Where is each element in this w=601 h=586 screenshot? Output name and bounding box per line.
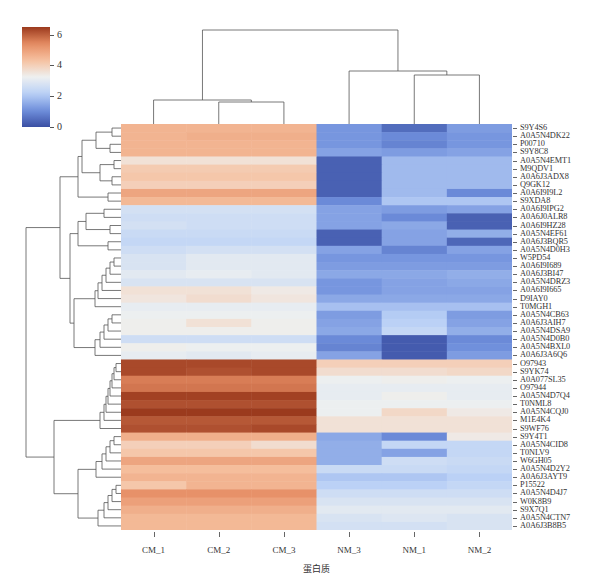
- heatmap-cell: [121, 343, 187, 352]
- heatmap-cell: [251, 238, 317, 247]
- heatmap-cell: [447, 311, 512, 320]
- heatmap-cell: [121, 221, 187, 230]
- heatmap-cell: [382, 514, 448, 523]
- heatmap-cell: [447, 506, 512, 515]
- heatmap-cell: [447, 408, 512, 417]
- heatmap-cell: [186, 498, 252, 507]
- heatmap-cell: [447, 368, 512, 377]
- dendrogram-branch: [112, 177, 121, 185]
- column-label: NM_3: [319, 545, 379, 555]
- heatmap-cell: [121, 132, 187, 141]
- heatmap-cell: [447, 457, 512, 466]
- heatmap-cell: [447, 481, 512, 490]
- row-tick: [513, 161, 517, 162]
- heatmap-cell: [382, 205, 448, 214]
- heatmap-cell: [382, 262, 448, 271]
- heatmap-cell: [186, 343, 252, 352]
- heatmap-cell: [186, 189, 252, 198]
- heatmap-cell: [447, 286, 512, 295]
- heatmap-cell: [251, 449, 317, 458]
- dendrogram-branch: [114, 258, 121, 266]
- dendrogram-branch: [78, 156, 108, 197]
- heatmap-cell: [382, 441, 448, 450]
- heatmap-cell: [317, 262, 383, 271]
- heatmap-cell: [251, 173, 317, 182]
- heatmap-cell: [382, 278, 448, 287]
- row-tick: [513, 169, 517, 170]
- heatmap-cell: [121, 140, 187, 149]
- heatmap-cell: [121, 278, 187, 287]
- heatmap-cell: [186, 303, 252, 312]
- heatmap-cell: [447, 522, 512, 530]
- heatmap-cell: [186, 368, 252, 377]
- heatmap-cell: [121, 392, 187, 401]
- dendrogram-branch: [112, 128, 121, 136]
- dendrogram-branch: [74, 299, 95, 348]
- heatmap-cell: [447, 173, 512, 182]
- heatmap-cell: [317, 140, 383, 149]
- heatmap-cell: [186, 441, 252, 450]
- heatmap-cell: [251, 319, 317, 328]
- heatmap-cell: [121, 368, 187, 377]
- colorbar-tick-label: 2: [57, 91, 62, 101]
- heatmap-cell: [382, 311, 448, 320]
- heatmap-cell: [186, 165, 252, 174]
- heatmap-cell: [447, 376, 512, 385]
- colorbar-tick: [50, 65, 54, 66]
- heatmap-cell: [121, 238, 187, 247]
- heatmap-cell: [186, 295, 252, 304]
- colorbar: [22, 27, 50, 127]
- heatmap-cell: [186, 319, 252, 328]
- heatmap-cell: [186, 238, 252, 247]
- heatmap-cell: [121, 449, 187, 458]
- heatmap-cell: [447, 303, 512, 312]
- column-label: NM_1: [384, 545, 444, 555]
- column-tick: [284, 532, 285, 537]
- row-dendrogram: [0, 124, 121, 530]
- heatmap-cell: [382, 319, 448, 328]
- heatmap-cell: [317, 295, 383, 304]
- heatmap-cell: [186, 416, 252, 425]
- row-tick: [513, 388, 517, 389]
- row-tick: [513, 429, 517, 430]
- row-tick: [513, 266, 517, 267]
- heatmap-cell: [121, 416, 187, 425]
- heatmap-cell: [186, 213, 252, 222]
- row-tick: [513, 453, 517, 454]
- heatmap-cell: [382, 173, 448, 182]
- row-tick: [513, 437, 517, 438]
- row-tick: [513, 347, 517, 348]
- row-tick: [513, 364, 517, 365]
- heatmap-cell: [382, 270, 448, 279]
- heatmap-cell: [447, 205, 512, 214]
- row-tick: [513, 250, 517, 251]
- heatmap-cell: [382, 124, 448, 133]
- heatmap-cell: [317, 254, 383, 263]
- heatmap-cell: [317, 165, 383, 174]
- heatmap-cell: [317, 189, 383, 198]
- heatmap-cell: [251, 343, 317, 352]
- heatmap-cell: [317, 400, 383, 409]
- heatmap-cell: [121, 457, 187, 466]
- heatmap-cell: [251, 221, 317, 230]
- row-tick: [513, 339, 517, 340]
- heatmap-cell: [317, 148, 383, 157]
- heatmap-cell: [186, 457, 252, 466]
- heatmap-cell: [317, 286, 383, 295]
- row-tick: [513, 274, 517, 275]
- heatmap-cell: [251, 376, 317, 385]
- heatmap-cell: [251, 278, 317, 287]
- heatmap-cell: [186, 384, 252, 393]
- heatmap-cell: [186, 156, 252, 165]
- row-tick: [513, 323, 517, 324]
- heatmap-cell: [186, 132, 252, 141]
- row-tick: [513, 209, 517, 210]
- heatmap-cell: [317, 238, 383, 247]
- heatmap-cell: [251, 424, 317, 433]
- heatmap-cell: [382, 221, 448, 230]
- heatmap-cell: [121, 189, 187, 198]
- heatmap-cell: [121, 197, 187, 206]
- heatmap-cell: [121, 213, 187, 222]
- heatmap-cell: [186, 270, 252, 279]
- heatmap-cell: [121, 286, 187, 295]
